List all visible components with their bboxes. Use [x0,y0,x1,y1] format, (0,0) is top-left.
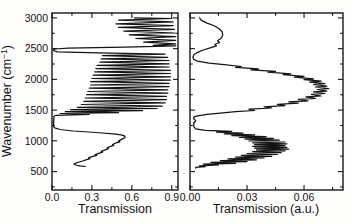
y-tick-label: 2000 [25,73,49,85]
y-axis-label: Wavenumber (cm−1) [0,45,14,157]
y-tick-label: 3000 [25,12,49,24]
right-spectrum-panel: 0.000.030.06 [180,13,343,203]
y-tick-label: 500 [30,165,48,177]
y-tick-label: 1500 [25,104,49,116]
y-tick-label: 2500 [25,42,49,54]
ftir-spectra-figure: 0.00.30.60.950010001500200025003000 0.00… [0,0,351,224]
x-tick-label: 0.9 [164,191,179,203]
spectra-chart: 0.00.30.60.950010001500200025003000 0.00… [0,0,351,224]
y-tick-label: 1000 [25,135,49,147]
right-x-axis-label: Transmission (a.u.) [213,202,320,216]
left-x-axis-label: Transmission [78,202,152,216]
x-tick-label: 0.00 [180,191,201,203]
left-spectrum-panel: 0.00.30.60.950010001500200025003000 [25,12,180,203]
x-tick-label: 0.0 [45,191,60,203]
